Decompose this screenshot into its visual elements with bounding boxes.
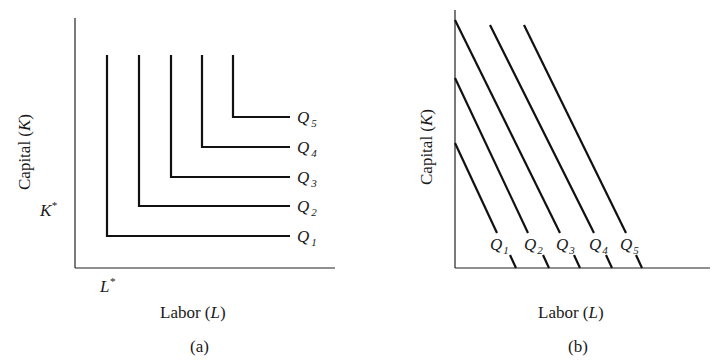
- figure: Q1 Q2 Q3 Q4 Q5 K* L* Labor (L) Capital (…: [0, 0, 718, 362]
- isoquant-q4-b: [490, 25, 612, 268]
- panel-b: Q1 Q2 Q3 Q4 Q5 Labor (L) Capital (K) (b): [417, 10, 710, 356]
- x-axis-label-b: Labor (L): [538, 303, 604, 322]
- label-q4-a: Q4: [297, 138, 317, 159]
- label-q1-a: Q1: [297, 227, 317, 248]
- x-axis-label-a: Labor (L): [160, 303, 226, 322]
- isoquant-q3-b: [455, 20, 580, 268]
- label-q3-b: Q3: [556, 235, 575, 256]
- label-q1-b: Q1: [490, 235, 509, 256]
- label-q4-b: Q4: [589, 235, 608, 256]
- panel-a: Q1 Q2 Q3 Q4 Q5 K* L* Labor (L) Capital (…: [15, 18, 335, 356]
- isoquant-q4-a: [202, 55, 290, 147]
- label-q3-a: Q3: [297, 168, 317, 189]
- k-star-label: K*: [39, 199, 57, 220]
- label-q2-b: Q2: [524, 235, 543, 256]
- isoquant-q1-a: [107, 55, 290, 236]
- y-axis-label-a: Capital (K): [15, 114, 34, 190]
- isoquant-q2-a: [139, 55, 290, 206]
- y-axis-label-b: Capital (K): [417, 109, 436, 185]
- caption-a: (a): [190, 337, 209, 356]
- l-star-label: L*: [99, 275, 115, 296]
- label-q5-a: Q5: [297, 108, 317, 129]
- label-q2-a: Q2: [297, 197, 317, 218]
- isoquant-q5-b: [524, 25, 642, 268]
- caption-b: (b): [568, 337, 588, 356]
- isoquant-q5-a: [233, 55, 290, 117]
- label-q5-b: Q5: [620, 235, 639, 256]
